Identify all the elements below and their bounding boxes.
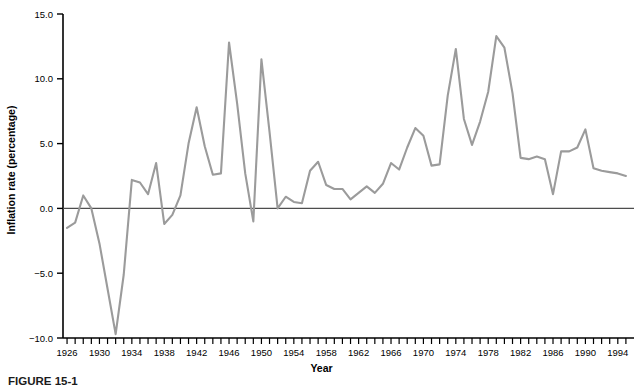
x-tick-label: 1978 [478, 347, 499, 358]
x-tick-label: 1958 [316, 347, 337, 358]
x-tick-label: 1962 [348, 347, 369, 358]
inflation-line-chart: −10.0−5.00.05.010.015.0 1926193019341938… [0, 0, 643, 385]
x-tick-label: 1934 [121, 347, 142, 358]
figure-caption: FIGURE 15-1 [8, 375, 78, 385]
y-axis-label-container: Inflation rate (percentage) [0, 0, 22, 340]
x-tick-label: 1950 [251, 347, 272, 358]
x-tick-label: 1966 [380, 347, 401, 358]
x-tick-label: 1926 [56, 347, 77, 358]
x-tick-label: 1946 [218, 347, 239, 358]
x-tick-label: 1974 [445, 347, 466, 358]
x-axis-tick-labels: 1926193019341938194219461950195419581962… [56, 347, 628, 358]
y-tick-label: −5.0 [34, 268, 53, 279]
x-tick-label: 1970 [413, 347, 434, 358]
x-tick-label: 1990 [575, 347, 596, 358]
x-axis-label: Year [0, 362, 643, 374]
figure-container: −10.0−5.00.05.010.015.0 1926193019341938… [0, 0, 643, 385]
y-tick-label: 5.0 [40, 138, 53, 149]
y-axis-tick-labels: −10.0−5.00.05.010.015.0 [29, 9, 53, 344]
y-tick-label: 10.0 [35, 73, 54, 84]
x-tick-label: 1994 [607, 347, 628, 358]
y-tick-label: −10.0 [29, 333, 53, 344]
y-tick-label: 15.0 [35, 9, 54, 20]
x-tick-label: 1938 [154, 347, 175, 358]
x-tick-label: 1954 [283, 347, 304, 358]
x-tick-label: 1930 [89, 347, 110, 358]
y-axis-label: Inflation rate (percentage) [5, 106, 17, 235]
x-axis-ticks [67, 338, 626, 344]
y-tick-label: 0.0 [40, 203, 53, 214]
y-axis-ticks [57, 14, 63, 338]
x-tick-label: 1986 [542, 347, 563, 358]
x-tick-label: 1942 [186, 347, 207, 358]
x-tick-label: 1982 [510, 347, 531, 358]
inflation-rate-line [67, 36, 626, 334]
